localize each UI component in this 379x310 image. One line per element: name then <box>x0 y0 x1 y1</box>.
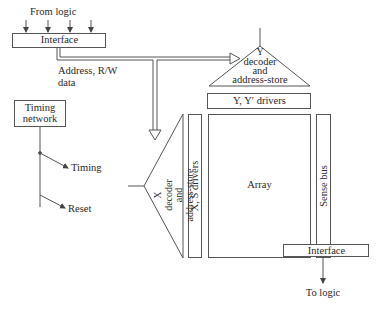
bus-top-outer <box>60 48 230 57</box>
y-decoder-line4: address-store <box>210 75 310 86</box>
timing-output-label: Timing <box>71 163 102 174</box>
to-logic-label: To logic <box>283 288 363 299</box>
timing-arrow <box>40 153 68 168</box>
from-logic-label: From logic <box>30 7 76 18</box>
timing-box-label-2: network <box>14 114 66 125</box>
timing-box-label-1: Timing <box>14 103 66 114</box>
bottom-interface-label: Interface <box>284 246 369 257</box>
x-bus-arrowhead <box>149 130 161 140</box>
top-interface-label: Interface <box>13 35 106 46</box>
bus-label-1: Address, R/W <box>58 66 118 77</box>
bus-outer-left <box>57 48 153 130</box>
x-decoder-label: X decoder and address-store <box>153 145 187 245</box>
array-label: Array <box>208 180 311 191</box>
reset-output-label: Reset <box>68 204 91 215</box>
bus-label-2: data <box>58 78 76 89</box>
reset-arrow <box>40 195 65 208</box>
y-drivers-label: Y, Y′ drivers <box>208 96 311 107</box>
sense-bus-label: Sense bus <box>318 146 330 226</box>
x-drivers-label: X, S drivers <box>189 146 201 226</box>
